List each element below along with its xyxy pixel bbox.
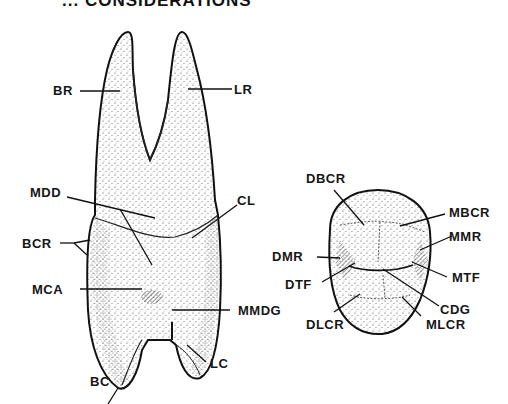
label-cdg: CDG [440, 303, 470, 316]
label-mbcr: MBCR [449, 206, 490, 219]
label-dtf: DTF [285, 278, 312, 291]
label-mmr: MMR [449, 230, 482, 243]
label-mmdg: MMDG [238, 304, 281, 317]
label-lc: LC [210, 357, 228, 370]
label-lr: LR [234, 83, 252, 96]
label-mca: MCA [32, 283, 63, 296]
label-cl: CL [237, 194, 255, 207]
label-mlcr: MLCR [426, 318, 466, 331]
label-br: BR [53, 84, 73, 97]
side-view-tooth [87, 32, 221, 389]
label-dmr: DMR [272, 250, 303, 263]
label-dbcr: DBCR [306, 172, 346, 185]
label-mdd: MDD [30, 186, 61, 199]
label-bc: BC [90, 375, 110, 388]
label-bcr: BCR [22, 237, 52, 250]
label-mtf: MTF [452, 271, 480, 284]
occlusal-view-tooth [329, 190, 430, 334]
label-dlcr: DLCR [306, 318, 344, 331]
